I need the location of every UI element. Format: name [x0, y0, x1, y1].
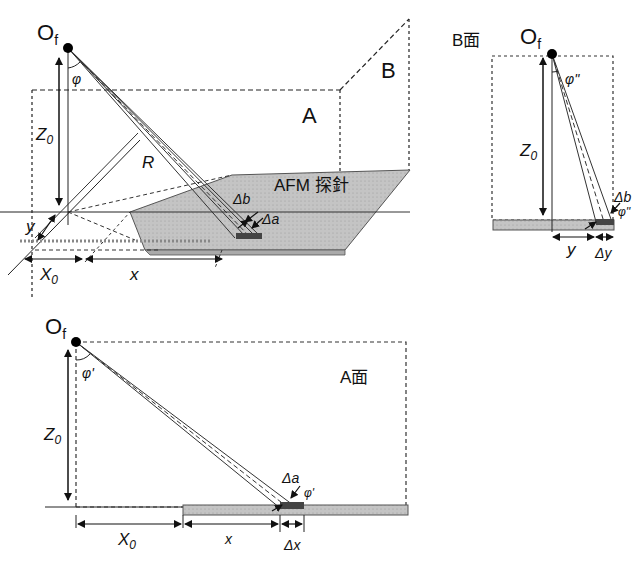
focus-label: Of — [37, 20, 58, 48]
angle-label: φ'' — [565, 71, 581, 87]
b-plane-view: B面 Of φ'' Z0 Δb φ'' y Δy — [452, 24, 631, 261]
angle-label: φ' — [82, 365, 95, 381]
delta-b-label: Δb — [232, 191, 250, 207]
a-plane-title: A面 — [340, 368, 368, 387]
focus-point-icon — [547, 49, 557, 59]
a-plane-view: Of φ' A面 Z0 Δa φ' X0 x Δx — [43, 314, 408, 553]
b-plane-title: B面 — [452, 31, 480, 50]
afm-geometry-diagram: Of φ Z0 A B R AFM 探針 Δb Δa y X0 x B面 Of … — [0, 0, 640, 567]
x-label: x — [129, 265, 139, 284]
height-label: Z0 — [35, 125, 53, 147]
plane-a-label: A — [302, 103, 317, 128]
probe-label: AFM 探針 — [274, 176, 349, 195]
angle2-label: φ' — [304, 486, 315, 500]
delta-b-label: Δb — [613, 189, 631, 205]
radius-label: R — [142, 153, 154, 172]
delta-a-label: Δa — [261, 211, 279, 227]
x0-label: X0 — [39, 265, 58, 287]
delta-y-label: Δy — [594, 245, 612, 261]
angle2-label: φ'' — [618, 205, 631, 219]
x-label: x — [224, 531, 233, 547]
y-label: y — [25, 217, 36, 236]
focus-point-icon — [63, 43, 73, 53]
delta-a-label: Δa — [281, 470, 299, 486]
delta-x-label: Δx — [283, 537, 301, 553]
height-label: Z0 — [519, 141, 537, 163]
focus-label: Of — [45, 314, 66, 342]
height-label: Z0 — [43, 425, 61, 447]
x0-label: X0 — [117, 530, 136, 552]
focus-point-icon — [71, 337, 81, 347]
focus-label: Of — [520, 24, 541, 52]
perspective-view: Of φ Z0 A B R AFM 探針 Δb Δa y X0 x — [0, 19, 410, 300]
y-label: y — [566, 240, 577, 259]
plane-b-label: B — [381, 58, 396, 83]
angle-label: φ — [72, 71, 81, 87]
